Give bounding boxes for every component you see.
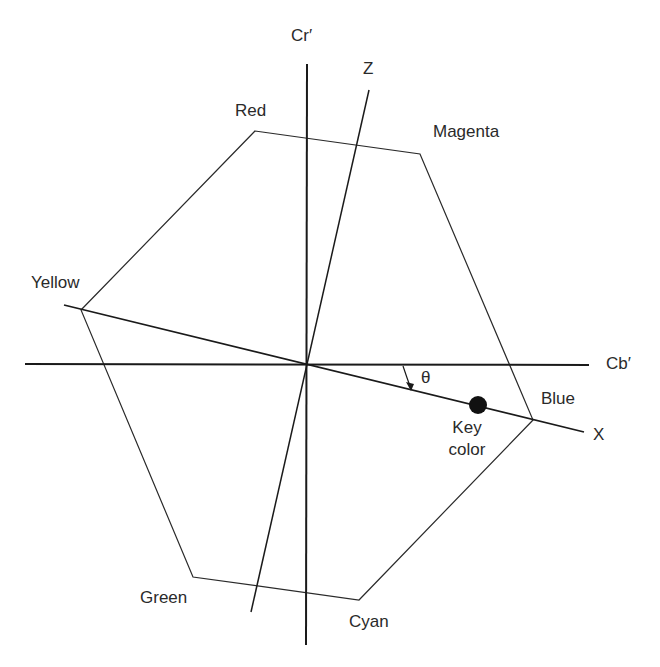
z-axis-label: Z xyxy=(363,60,373,77)
x-axis-label: X xyxy=(593,426,604,443)
z-axis xyxy=(251,90,369,612)
x-axis xyxy=(64,305,584,432)
theta-label: θ xyxy=(421,369,430,386)
cr-axis xyxy=(306,64,307,645)
blue-label: Blue xyxy=(541,390,575,407)
cyan-label: Cyan xyxy=(349,613,389,630)
yellow-label: Yellow xyxy=(31,274,80,291)
color-space-diagram xyxy=(0,0,660,667)
green-label: Green xyxy=(140,589,187,606)
magenta-label: Magenta xyxy=(433,123,499,140)
key-color-label-line2: color xyxy=(437,441,497,458)
key-color-label-line1: Key xyxy=(437,419,497,436)
key-color-dot xyxy=(469,396,487,414)
red-label: Red xyxy=(235,102,266,119)
cb-axis-label: Cb′ xyxy=(606,355,631,372)
cr-axis-label: Cr′ xyxy=(291,27,312,44)
